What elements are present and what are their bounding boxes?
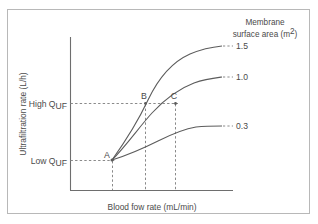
legend-title-line-1: Membrane <box>245 18 285 27</box>
y-tick-low-quf-prefix: Low Q <box>31 156 56 166</box>
y-tick-high-quf: High QUF <box>29 99 67 111</box>
curve-series-1-5 <box>112 46 222 160</box>
legend-title-line-2: surface area (m2) <box>233 27 298 39</box>
point-label-b: B <box>141 91 147 101</box>
y-axis-title: Ultrafiltration rate (L/h) <box>18 72 28 156</box>
y-tick-high-quf-subscript: UF <box>56 101 67 111</box>
y-tick-high-quf-prefix: High Q <box>29 99 56 109</box>
legend-title-unit-suffix: ) <box>295 30 298 39</box>
y-tick-low-quf-subscript: UF <box>56 158 67 168</box>
chart-canvas: A B C High QUF Low QUF 1.5 1.0 0.3 Membr… <box>0 0 318 224</box>
x-axis-title: Blood fow rate (mL/min) <box>108 202 197 212</box>
point-marker-a <box>111 159 114 162</box>
point-label-c: C <box>171 91 178 101</box>
legend-title-unit-prefix: surface area (m <box>233 30 291 39</box>
series-label-1-0: 1.0 <box>236 72 248 82</box>
point-marker-b <box>144 102 147 105</box>
y-tick-low-quf: Low QUF <box>31 156 67 168</box>
curve-series-0-3 <box>112 126 222 160</box>
point-label-a: A <box>104 150 110 160</box>
series-label-0-3: 0.3 <box>236 121 248 131</box>
point-marker-c <box>174 102 177 105</box>
series-label-1-5: 1.5 <box>236 41 248 51</box>
curve-series-1-0 <box>112 77 222 160</box>
